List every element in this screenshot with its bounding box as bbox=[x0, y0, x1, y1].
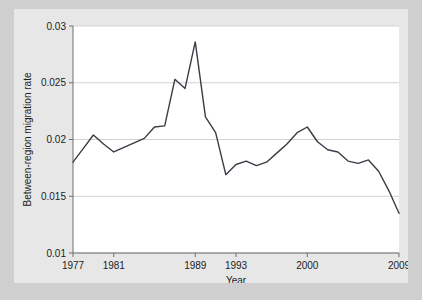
x-tick-label: 2000 bbox=[296, 260, 319, 271]
chart-canvas: 0.010.0150.020.0250.03197719811989199320… bbox=[14, 9, 408, 283]
y-tick-label: 0.025 bbox=[41, 77, 66, 88]
x-tick-label: 1989 bbox=[184, 260, 207, 271]
y-axis-title: Between-region migration rate bbox=[22, 72, 33, 206]
x-tick-label: 2009 bbox=[388, 260, 408, 271]
x-tick-label: 1981 bbox=[103, 260, 126, 271]
y-tick-label: 0.015 bbox=[41, 191, 66, 202]
x-tick-label: 1993 bbox=[225, 260, 248, 271]
y-tick-label: 0.01 bbox=[47, 248, 67, 259]
figure-panel: 0.010.0150.020.0250.03197719811989199320… bbox=[14, 9, 408, 283]
y-tick-label: 0.02 bbox=[47, 134, 67, 145]
y-tick-label: 0.03 bbox=[47, 21, 67, 32]
line-chart: 0.010.0150.020.0250.03197719811989199320… bbox=[14, 9, 408, 283]
x-axis-title: Year bbox=[226, 275, 247, 283]
x-tick-label: 1977 bbox=[62, 260, 85, 271]
